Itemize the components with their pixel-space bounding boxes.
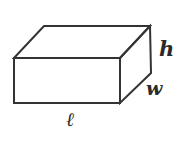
top-face <box>14 26 150 58</box>
length-label: ℓ <box>66 110 74 129</box>
height-label: h <box>159 38 174 59</box>
width-label: w <box>146 79 162 98</box>
front-face <box>14 58 120 103</box>
rectangular-prism-diagram: h w ℓ <box>0 0 175 144</box>
prism-outline <box>0 0 175 144</box>
